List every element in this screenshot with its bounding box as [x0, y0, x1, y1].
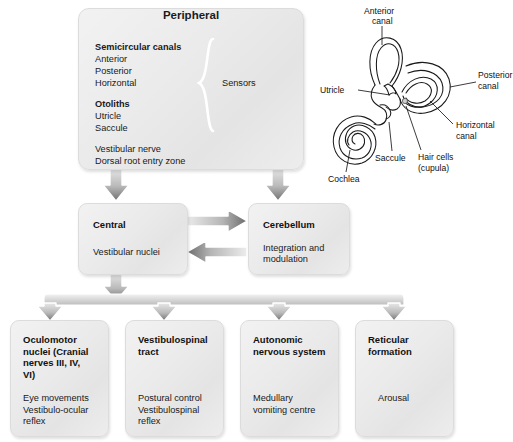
cerebellum-body-line1: Integration and — [263, 243, 324, 255]
output-distribution-bar — [44, 294, 404, 305]
peripheral-title: Peripheral — [79, 9, 303, 21]
spacer — [95, 89, 235, 98]
leader-saccule — [389, 122, 392, 151]
otolith-item-utricle: Utricle — [95, 110, 235, 122]
anterior-canal-inner — [376, 44, 399, 84]
leader-horizontal-canal — [430, 101, 453, 124]
cerebellum-title: Cerebellum — [263, 219, 315, 231]
output-3-title: Autonomic nervous system — [253, 334, 325, 357]
sensors-label: Sensors — [222, 78, 256, 88]
label-posterior-canal-line1: Posterior — [478, 70, 513, 80]
label-hair-cells-line1: Hair cells — [418, 152, 453, 162]
vestibule-body-2 — [386, 86, 400, 110]
arrow-peripheral-to-cerebellum — [265, 168, 291, 201]
output-1-title: Oculomotor nuclei (Cranial nerves III, I… — [23, 334, 88, 380]
label-horizontal-canal-line1: Horizontal — [456, 120, 495, 130]
output-4-title: Reticular formation — [368, 334, 412, 357]
horizontal-canal-inner — [406, 83, 431, 104]
inner-ear-illustration: Anterior canal Posterior canal Horizonta… — [320, 0, 513, 190]
peripheral-box: Peripheral Semicircular canals Anterior … — [78, 8, 304, 170]
label-hair-cells-line2: (cupula) — [418, 163, 449, 173]
output-1-body: Eye movements Vestibulo-ocular reflex — [23, 393, 89, 428]
arrow-to-output-2 — [151, 303, 177, 321]
canal-item-anterior: Anterior — [95, 53, 235, 65]
otolith-item-saccule: Saccule — [95, 122, 235, 134]
leader-cochlea — [346, 150, 350, 172]
leader-utricle — [358, 90, 390, 95]
labyrinth-drawing: Anterior canal Posterior canal Horizonta… — [320, 0, 513, 190]
canal-item-posterior: Posterior — [95, 65, 235, 77]
arrow-peripheral-to-central — [103, 168, 129, 201]
output-box-vestibulospinal: Vestibulospinal tract Postural control V… — [125, 320, 224, 437]
peripheral-extra-dorsal-root: Dorsal root entry zone — [95, 155, 235, 167]
cochlea-inner — [339, 123, 375, 159]
peripheral-extra-vestibular-nerve: Vestibular nerve — [95, 143, 235, 155]
diagram-canvas: Peripheral Semicircular canals Anterior … — [0, 0, 513, 442]
anterior-canal-outer — [370, 38, 403, 86]
arrow-cerebellum-to-central — [187, 241, 247, 263]
central-body: Vestibular nuclei — [93, 247, 160, 259]
label-posterior-canal-line2: canal — [478, 81, 499, 91]
output-4-body: Arousal — [378, 393, 409, 405]
otoliths-heading: Otoliths — [95, 98, 235, 110]
semicircular-canals-heading: Semicircular canals — [95, 41, 235, 53]
cerebellum-box: Cerebellum Integration and modulation — [248, 203, 350, 275]
output-2-title: Vestibulospinal tract — [138, 334, 208, 357]
cerebellum-body-line2: modulation — [263, 254, 308, 266]
output-box-autonomic: Autonomic nervous system Medullary vomit… — [240, 320, 339, 437]
leader-posterior-canal — [450, 82, 476, 87]
output-box-oculomotor: Oculomotor nuclei (Cranial nerves III, I… — [10, 320, 109, 437]
label-cochlea: Cochlea — [328, 174, 360, 184]
canal-item-horizontal: Horizontal — [95, 77, 235, 89]
output-box-reticular: Reticular formation Arousal — [355, 320, 454, 437]
peripheral-content: Semicircular canals Anterior Posterior H… — [95, 41, 235, 167]
arrow-central-to-cerebellum — [186, 210, 247, 232]
central-title: Central — [93, 219, 126, 231]
output-2-body: Postural control Vestibulospinal reflex — [138, 393, 202, 428]
arrow-to-output-3 — [266, 303, 292, 321]
arrow-to-output-4 — [381, 303, 407, 321]
label-anterior-canal-line2: canal — [372, 16, 393, 26]
label-saccule: Saccule — [375, 153, 406, 163]
arrow-to-output-1 — [37, 303, 63, 321]
label-horizontal-canal-line2: canal — [456, 131, 477, 141]
central-box: Central Vestibular nuclei — [78, 203, 188, 275]
output-3-body: Medullary vomiting centre — [253, 393, 315, 416]
label-utricle: Utricle — [320, 85, 345, 95]
label-anterior-canal-line1: Anterior — [364, 6, 394, 16]
spacer-2 — [95, 134, 235, 143]
hair-cells-marker — [402, 98, 407, 103]
label-leader-lines — [346, 26, 476, 172]
